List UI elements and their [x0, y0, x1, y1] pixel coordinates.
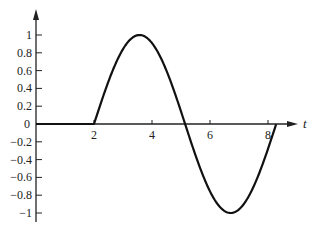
x-tick-label: 4 [149, 128, 155, 142]
y-tick-label: 0.4 [17, 81, 32, 95]
x-axis: t 2468 [36, 116, 307, 142]
y-tick-label: 0.8 [17, 46, 32, 60]
x-axis-arrow-icon [287, 121, 298, 127]
y-axis: 10.80.60.40.20−0.2−0.4−0.6−0.8−1 [10, 9, 42, 222]
y-axis-arrow-icon [33, 9, 39, 20]
y-tick-label: −0.8 [10, 188, 32, 202]
y-tick-label: 0 [24, 117, 30, 131]
line-chart: 10.80.60.40.20−0.2−0.4−0.6−0.8−1 t 2468 [0, 0, 322, 233]
y-tick-label: 0.6 [17, 64, 32, 78]
y-tick-label: −0.4 [10, 153, 32, 167]
y-tick-label: −1 [19, 206, 32, 220]
y-tick-label: −0.6 [10, 170, 32, 184]
x-tick-label: 6 [207, 128, 213, 142]
y-tick-label: −0.2 [10, 135, 32, 149]
y-tick-label: 0.2 [17, 99, 32, 113]
x-axis-label: t [303, 116, 307, 131]
x-tick-label: 2 [91, 128, 97, 142]
y-tick-label: 1 [26, 28, 32, 42]
